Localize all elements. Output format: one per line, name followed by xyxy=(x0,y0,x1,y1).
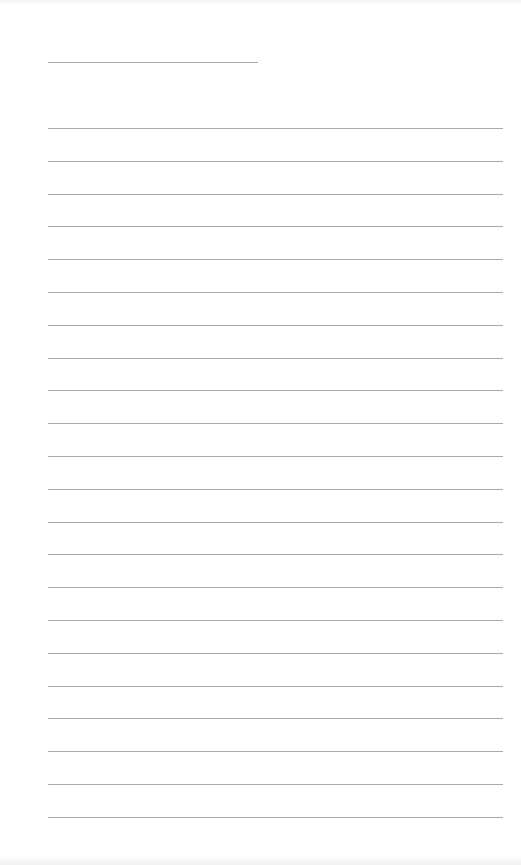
writing-line xyxy=(48,358,503,359)
writing-line xyxy=(48,292,503,293)
writing-line xyxy=(48,522,503,523)
writing-line xyxy=(48,686,503,687)
writing-line xyxy=(48,456,503,457)
writing-line xyxy=(48,784,503,785)
writing-line xyxy=(48,751,503,752)
writing-line xyxy=(48,817,503,818)
writing-line xyxy=(48,620,503,621)
writing-line xyxy=(48,325,503,326)
writing-line xyxy=(48,489,503,490)
writing-line xyxy=(48,226,503,227)
writing-line xyxy=(48,128,503,129)
writing-line xyxy=(48,390,503,391)
writing-line xyxy=(48,718,503,719)
writing-line xyxy=(48,587,503,588)
writing-line xyxy=(48,161,503,162)
writing-line xyxy=(48,554,503,555)
writing-line xyxy=(48,423,503,424)
writing-line xyxy=(48,653,503,654)
ruled-lines-area xyxy=(0,0,521,865)
writing-line xyxy=(48,194,503,195)
page-bottom-edge-shadow xyxy=(0,855,521,865)
writing-line xyxy=(48,259,503,260)
